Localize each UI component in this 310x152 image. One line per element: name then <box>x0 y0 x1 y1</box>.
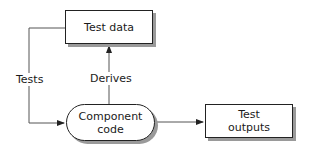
node-test-data-label: Test data <box>84 21 134 34</box>
node-component-code: Component code <box>66 104 155 141</box>
node-test-outputs-line1: Test <box>238 108 260 121</box>
node-test-data: Test data <box>65 10 153 44</box>
node-test-outputs: Test outputs <box>205 104 293 138</box>
edge-label-tests: Tests <box>15 73 44 86</box>
node-component-code-line1: Component <box>79 110 143 123</box>
edge-label-derives: Derives <box>89 72 133 85</box>
node-test-outputs-line2: outputs <box>228 121 270 134</box>
node-component-code-line2: code <box>97 123 124 136</box>
